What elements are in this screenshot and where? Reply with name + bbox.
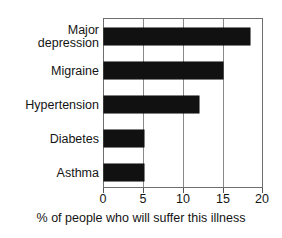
category-label-migraine: Migraine	[0, 65, 99, 78]
bar-major-depression	[104, 28, 250, 45]
category-axis-labels: Major depression Migraine Hypertension D…	[0, 18, 99, 188]
xtick-label-20: 20	[247, 192, 277, 206]
bar-diabetes	[104, 130, 144, 147]
xtick-label-10: 10	[168, 192, 198, 206]
bar-asthma	[104, 164, 144, 181]
bars-layer	[104, 19, 262, 187]
bar-slot-hypertension	[104, 87, 262, 121]
category-label-hypertension: Hypertension	[0, 99, 99, 112]
category-label-line-2: depression	[0, 37, 99, 50]
bar-slot-diabetes	[104, 121, 262, 155]
category-label-line-1: Major	[68, 23, 99, 37]
category-label-diabetes: Diabetes	[0, 133, 99, 146]
bar-slot-major-depression	[104, 19, 262, 53]
category-label-asthma: Asthma	[0, 167, 99, 180]
xtick-label-5: 5	[128, 192, 158, 206]
plot-area	[103, 18, 263, 188]
bar-slot-migraine	[104, 53, 262, 87]
bar-hypertension	[104, 96, 199, 113]
bar-migraine	[104, 62, 223, 79]
x-axis-title: % of people who will suffer this illness	[0, 211, 282, 225]
category-label-major-depression: Major depression	[0, 24, 99, 50]
xtick-label-15: 15	[208, 192, 238, 206]
xtick-label-0: 0	[88, 192, 118, 206]
bar-slot-asthma	[104, 155, 262, 189]
bar-chart: Major depression Migraine Hypertension D…	[0, 0, 282, 238]
